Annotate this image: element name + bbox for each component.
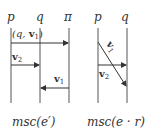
process-label-pi: π xyxy=(63,10,73,24)
message-label-v1: v1 xyxy=(53,73,64,86)
message-label-v2: v2 xyxy=(98,68,109,81)
msc-e-r: p q v1 v2 msc(e · r) xyxy=(87,10,145,129)
message-label-q-v1: (q, v1) xyxy=(12,28,43,41)
process-label-q: q xyxy=(121,10,129,24)
message-label-v2: v2 xyxy=(11,51,22,64)
process-label-p: p xyxy=(94,10,102,24)
msc-diagrams: p q π (q, v1) v2 v1 msc(e′) p q v1 v2 ms… xyxy=(0,0,145,139)
process-label-p: p xyxy=(7,10,15,24)
process-label-q: q xyxy=(36,10,44,24)
caption-msc-e-r: msc(e · r) xyxy=(87,115,145,129)
caption-msc-e-prime: msc(e′) xyxy=(12,115,56,129)
msc-e-prime: p q π (q, v1) v2 v1 msc(e′) xyxy=(7,10,73,129)
